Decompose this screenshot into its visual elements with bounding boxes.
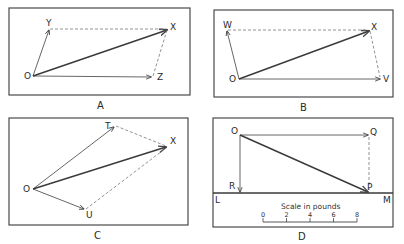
dashed-tx [116, 126, 166, 146]
panel-a: O Y X Z A [9, 8, 190, 111]
label-m: M [383, 195, 391, 205]
dashed-xz [153, 30, 167, 76]
panel-c: O T X U C [9, 118, 188, 241]
label-p: P [367, 182, 373, 192]
label-q: Q [370, 127, 377, 137]
scale-tick-8: 8 [355, 211, 359, 219]
label-x: X [371, 22, 377, 32]
scale-tick-6: 6 [332, 211, 336, 219]
vector-ow [227, 31, 239, 79]
label-o: O [231, 126, 238, 136]
scale-title: Scale in pounds [281, 202, 340, 211]
panel-c-frame [9, 118, 188, 225]
scale-tick-0: 0 [261, 211, 265, 219]
caption-a: A [97, 100, 104, 111]
panel-b-frame [214, 10, 393, 97]
label-o: O [23, 184, 30, 194]
resultant-ox [239, 31, 369, 79]
dashed-ux [86, 148, 166, 209]
label-y: Y [45, 18, 52, 28]
vector-oy [33, 30, 49, 76]
caption-d: D [298, 231, 306, 242]
label-v: V [383, 74, 390, 84]
resultant-ox [33, 30, 167, 76]
label-u: U [86, 210, 93, 220]
scale-tick-2: 2 [285, 211, 289, 219]
vector-ou [33, 189, 84, 209]
vector-oz [33, 76, 151, 77]
label-o: O [24, 71, 31, 81]
scale-tick-4: 4 [308, 211, 312, 219]
panel-b: O W X V B [214, 10, 393, 113]
label-z: Z [157, 72, 163, 82]
vector-ot [33, 127, 114, 189]
label-o: O [229, 74, 236, 84]
label-w: W [223, 20, 232, 30]
caption-c: C [94, 230, 101, 241]
label-x: X [170, 136, 176, 146]
label-r: R [229, 181, 235, 191]
label-l: L [215, 195, 220, 205]
vector-diagram-figure: O Y X Z A O W X V B O T X U C [0, 0, 404, 244]
label-t: T [104, 121, 111, 131]
scale-bar: Scale in pounds 0 2 4 6 8 [261, 202, 359, 222]
panel-d: O Q P R L M Scale in pounds 0 2 4 6 8 D [213, 118, 393, 242]
caption-b: B [300, 102, 307, 113]
resultant-op [240, 135, 368, 192]
resultant-ox [33, 147, 166, 189]
label-x: X [170, 22, 176, 32]
dashed-xv [370, 31, 380, 77]
